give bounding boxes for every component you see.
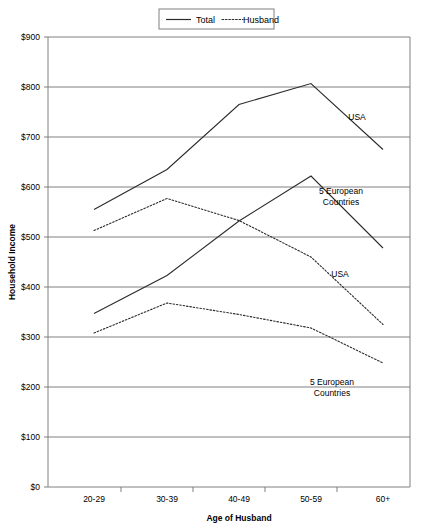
household-income-line-chart: Total Husband (0, 0, 423, 531)
y-gridlines (48, 37, 410, 487)
y-tick-label-0: $0 (31, 482, 41, 492)
y-tick-label-800: $800 (21, 82, 40, 92)
annotation-europe-husband: 5 European Countries (310, 377, 354, 398)
y-axis-title: Household Income (7, 224, 17, 300)
x-tick-labels: 20-29 30-39 40-49 50-59 60+ (83, 494, 390, 504)
y-tick-label-100: $100 (21, 432, 40, 442)
series-line-europe-husband (94, 303, 383, 363)
x-axis-title: Age of Husband (206, 513, 271, 523)
x-tick-label-4: 60+ (376, 494, 390, 504)
legend-label-husband: Husband (243, 15, 279, 25)
annotation-usa-husband: USA (331, 269, 349, 279)
legend-label-total: Total (196, 15, 215, 25)
y-tick-label-200: $200 (21, 382, 40, 392)
chart-container: Total Husband (0, 0, 423, 531)
annotation-europe-husband-line1: 5 European (310, 377, 354, 387)
chart-legend: Total Husband (159, 9, 279, 29)
y-tick-label-300: $300 (21, 332, 40, 342)
y-tick-label-400: $400 (21, 282, 40, 292)
annotation-usa-total: USA (348, 112, 366, 122)
y-tick-label-500: $500 (21, 232, 40, 242)
plot-frame (48, 37, 410, 487)
x-tick-label-1: 30-39 (156, 494, 178, 504)
series-line-usa-husband (94, 199, 383, 325)
y-tick-label-600: $600 (21, 182, 40, 192)
data-series-group (94, 84, 383, 364)
annotation-europe-total-line1: 5 European (319, 186, 363, 196)
y-tick-label-700: $700 (21, 132, 40, 142)
annotation-europe-total-line2: Countries (323, 197, 359, 207)
x-tickmarks (121, 487, 337, 492)
chart-annotations: USA 5 European Countries USA 5 European … (310, 112, 366, 398)
x-tick-label-3: 50-59 (300, 494, 322, 504)
y-tick-labels: $900 $800 $700 $600 $500 $400 $300 $200 … (21, 32, 40, 492)
y-tickmarks (44, 37, 48, 487)
annotation-europe-total: 5 European Countries (319, 186, 363, 207)
x-tick-label-0: 20-29 (83, 494, 105, 504)
y-tick-label-900: $900 (21, 32, 40, 42)
x-tick-label-2: 40-49 (228, 494, 250, 504)
annotation-europe-husband-line2: Countries (314, 388, 350, 398)
